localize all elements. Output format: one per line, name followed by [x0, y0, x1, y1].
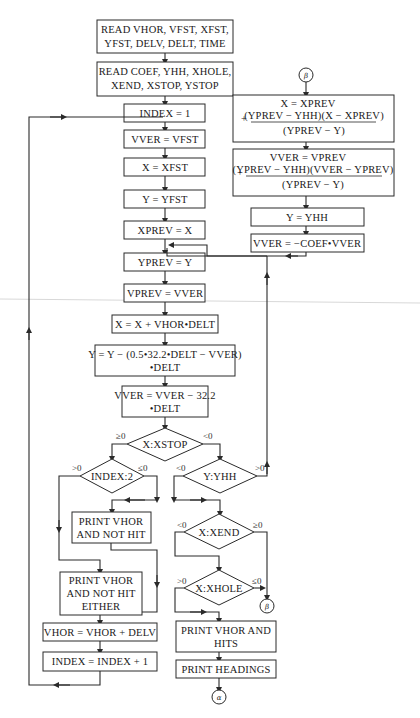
x-init-box: X = XFST	[124, 158, 205, 176]
connector-label: α	[217, 694, 222, 702]
box-text: Y = Y − (0.5•32.2•DELT − VVER)	[88, 349, 242, 361]
print-hits-box: PRINT VHOR AND HITS	[176, 621, 276, 652]
fraction-numerator: (YPREV − YHH)(VVER − YPREV)	[233, 164, 394, 176]
vver-update-box: VVER = VVER − 32.2 •DELT	[114, 386, 215, 417]
fraction-denominator: (YPREV − Y)	[282, 179, 344, 191]
y-update-box: Y = Y − (0.5•32.2•DELT − VVER) •DELT	[88, 345, 242, 376]
box-text: INDEX = INDEX + 1	[52, 656, 148, 667]
branch-line-yhh-lt0	[174, 476, 183, 500]
connector-line	[112, 500, 157, 512]
branch-label: >0	[72, 463, 82, 473]
scan-artifact	[0, 299, 420, 303]
box-text: X = XPREV	[281, 98, 336, 109]
box-text: VPREV = VVER	[127, 288, 203, 299]
print-headings-box: PRINT HEADINGS	[176, 660, 276, 678]
branch-label: >0	[255, 463, 265, 473]
fraction-denominator: (YPREV − Y)	[283, 125, 345, 137]
connector-label: β	[303, 72, 308, 80]
branch-label: ≤0	[252, 576, 262, 586]
vver-bounce-box: VVER = −COEF•VVER	[251, 234, 364, 252]
box-text: VVER = VPREV	[270, 152, 347, 163]
vver-interp-box: VVER = VPREV + (YPREV − YHH)(VVER − YPRE…	[233, 149, 394, 196]
box-text: XEND, XSTOP, YSTOP	[111, 80, 219, 91]
connector-alpha: α	[212, 690, 226, 704]
flowchart-canvas: READ VHOR, VFST, XFST, YFST, DELV, DELT,…	[0, 0, 420, 718]
branch-line-xstop-ge0	[112, 444, 127, 459]
box-text: X = X + VHOR•DELT	[115, 319, 215, 330]
read-inputs-box-1: READ VHOR, VFST, XFST, YFST, DELV, DELT,…	[97, 20, 233, 53]
box-text: XPREV = X	[138, 225, 193, 236]
branch-label: <0	[176, 463, 186, 473]
branch-label: ≥0	[253, 520, 263, 530]
box-text: AND NOT HIT	[66, 588, 135, 599]
decision-text: INDEX:2	[91, 471, 133, 482]
box-text: READ VHOR, VFST, XFST,	[101, 24, 229, 35]
decision-xstop: X:XSTOP ≥0 <0	[116, 428, 213, 461]
vhor-update-box: VHOR = VHOR + DELV	[43, 623, 157, 641]
box-text: VHOR = VHOR + DELV	[44, 627, 157, 638]
y-init-box: Y = YFST	[124, 190, 205, 208]
y-set-yhh-box: Y = YHH	[251, 208, 364, 226]
decision-xhole: X:XHOLE >0 ≤0	[177, 570, 262, 605]
branch-line-yhh-gt0	[257, 256, 267, 476]
vprev-box: VPREV = VVER	[124, 284, 205, 302]
box-text: YFST, DELV, DELT, TIME	[104, 38, 225, 49]
box-text: VVER = −COEF•VVER	[253, 238, 361, 249]
branch-label: <0	[177, 520, 187, 530]
fraction-numerator: (YPREV − YHH)(X − XPREV)	[244, 110, 384, 122]
decision-text: X:XHOLE	[195, 583, 242, 594]
branch-line-xstop-lt0	[203, 444, 220, 459]
decision-index: INDEX:2 >0 ≤0	[72, 459, 148, 493]
connector-beta-bottom: β	[260, 599, 274, 613]
index-update-box: INDEX = INDEX + 1	[43, 652, 157, 671]
connector-label: β	[264, 603, 269, 611]
box-text: PRINT HEADINGS	[181, 664, 270, 675]
print-not-hit-box: PRINT VHOR AND NOT HIT	[72, 512, 151, 543]
connector-line	[174, 500, 220, 514]
x-update-box: X = X + VHOR•DELT	[112, 315, 218, 333]
box-text: VVER = VFST	[131, 134, 199, 145]
box-text: •DELT	[150, 403, 181, 414]
decision-text: X:XSTOP	[143, 439, 188, 450]
merge-line-bounce	[267, 252, 306, 256]
box-text: HITS	[214, 638, 238, 649]
connector-beta-top: β	[299, 68, 313, 82]
decision-text: X:XEND	[199, 527, 240, 538]
branch-label: <0	[203, 431, 213, 441]
branch-label: ≥0	[116, 431, 126, 441]
print-not-hit-either-box: PRINT VHOR AND NOT HIT EITHER	[60, 572, 142, 615]
branch-line-index-le0	[144, 476, 157, 500]
branch-label: ≤0	[138, 463, 148, 473]
box-text: X = XFST	[142, 162, 188, 173]
box-text: PRINT VHOR	[69, 575, 133, 586]
box-text: VVER = VVER − 32.2	[114, 390, 215, 401]
xprev-box: XPREV = X	[124, 221, 205, 239]
box-text: AND NOT HIT	[76, 529, 145, 540]
decision-xend: X:XEND <0 ≥0	[177, 514, 263, 549]
decision-text: Y:YHH	[203, 471, 237, 482]
box-text: PRINT VHOR	[79, 516, 143, 527]
box-text: EITHER	[82, 601, 121, 612]
box-text: PRINT VHOR AND	[181, 625, 271, 636]
box-text: READ COEF, YHH, XHOLE,	[99, 66, 232, 77]
box-text: •DELT	[150, 362, 181, 373]
box-text: Y = YHH	[286, 212, 328, 223]
branch-label: >0	[177, 576, 187, 586]
box-text: YPREV = Y	[138, 257, 193, 268]
box-text: Y = YFST	[142, 194, 188, 205]
vver-init-box: VVER = VFST	[124, 130, 205, 148]
decision-yhh: Y:YHH <0 >0	[176, 459, 265, 493]
index-init-box: INDEX = 1	[124, 104, 205, 122]
x-interp-box: X = XPREV + (YPREV − YHH)(X − XPREV) (YP…	[233, 95, 394, 142]
read-inputs-box-2: READ COEF, YHH, XHOLE, XEND, XSTOP, YSTO…	[97, 62, 233, 96]
